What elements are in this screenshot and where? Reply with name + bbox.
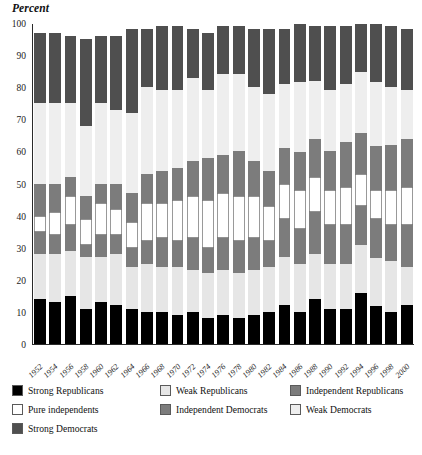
bar-segment bbox=[324, 309, 336, 344]
bar-segment bbox=[202, 158, 214, 200]
bar-segment bbox=[126, 193, 138, 222]
bar-segment bbox=[370, 82, 382, 146]
bar-segment bbox=[34, 232, 46, 254]
bar-segment bbox=[49, 302, 61, 344]
bar-segment bbox=[233, 196, 245, 241]
x-axis-tick: 1998 bbox=[378, 362, 396, 380]
bar-segment bbox=[110, 184, 122, 210]
bar-1962[interactable] bbox=[110, 24, 122, 344]
bar-segment bbox=[202, 248, 214, 274]
bar-segment bbox=[385, 87, 397, 145]
bar-1988[interactable] bbox=[309, 24, 321, 344]
bar-1996[interactable] bbox=[370, 24, 382, 344]
x-axis-tick: 1978 bbox=[225, 362, 243, 380]
bar-1982[interactable] bbox=[263, 24, 275, 344]
bar-segment bbox=[141, 241, 153, 263]
bar-segment bbox=[401, 225, 413, 267]
bar-1984[interactable] bbox=[279, 24, 291, 344]
bar-segment bbox=[65, 296, 77, 344]
y-axis-tick: 10 bbox=[17, 308, 27, 318]
y-axis-tick: 100 bbox=[12, 19, 26, 29]
bar-1968[interactable] bbox=[156, 24, 168, 344]
bar-1972[interactable] bbox=[187, 24, 199, 344]
bar-segment bbox=[355, 24, 367, 72]
bar-1956[interactable] bbox=[65, 24, 77, 344]
chart-legend: Strong RepublicansWeak RepublicansIndepe… bbox=[12, 385, 412, 443]
bar-1992[interactable] bbox=[340, 24, 352, 344]
y-axis-tick: 60 bbox=[17, 147, 27, 157]
bar-segment bbox=[340, 84, 352, 142]
x-axis-labels: 1952195419561958196019621964196619681970… bbox=[32, 346, 414, 380]
bar-segment bbox=[172, 200, 184, 242]
x-axis-tick: 1956 bbox=[57, 362, 75, 380]
bar-1980[interactable] bbox=[248, 24, 260, 344]
bar-segment bbox=[279, 184, 291, 219]
bar-segment bbox=[217, 315, 229, 344]
bar-1952[interactable] bbox=[34, 24, 46, 344]
legend-label: Weak Democrats bbox=[306, 404, 372, 415]
bar-segment bbox=[340, 264, 352, 309]
bar-segment bbox=[294, 229, 306, 264]
bar-segment bbox=[294, 190, 306, 228]
bar-1994[interactable] bbox=[355, 24, 367, 344]
bar-1990[interactable] bbox=[324, 24, 336, 344]
bar-segment bbox=[95, 257, 107, 302]
bar-1958[interactable] bbox=[80, 24, 92, 344]
bar-segment bbox=[34, 299, 46, 344]
bar-segment bbox=[65, 36, 77, 103]
legend-item[interactable]: Pure independents bbox=[12, 404, 99, 415]
bar-1986[interactable] bbox=[294, 24, 306, 344]
bar-segment bbox=[156, 26, 168, 90]
legend-label: Independent Republicans bbox=[306, 385, 403, 396]
legend-item[interactable]: Strong Democrats bbox=[12, 423, 98, 434]
bar-segment bbox=[233, 241, 245, 273]
x-axis-tick: 1972 bbox=[179, 362, 197, 380]
legend-item[interactable]: Independent Republicans bbox=[290, 385, 403, 396]
bar-segment bbox=[34, 103, 46, 183]
bar-1970[interactable] bbox=[172, 24, 184, 344]
bar-segment bbox=[110, 36, 122, 110]
y-axis-tick: 0 bbox=[21, 340, 26, 350]
bar-segment bbox=[370, 258, 382, 306]
bar-1998[interactable] bbox=[385, 24, 397, 344]
legend-item[interactable]: Independent Democrats bbox=[160, 404, 267, 415]
bar-segment bbox=[370, 146, 382, 191]
legend-item[interactable]: Weak Democrats bbox=[290, 404, 372, 415]
bar-segment bbox=[65, 103, 77, 177]
bar-segment bbox=[80, 257, 92, 308]
x-axis-tick: 1952 bbox=[27, 362, 45, 380]
bar-1954[interactable] bbox=[49, 24, 61, 344]
bar-segment bbox=[340, 225, 352, 264]
bar-segment bbox=[401, 305, 413, 344]
bar-1978[interactable] bbox=[233, 24, 245, 344]
bar-2000[interactable] bbox=[401, 24, 413, 344]
bar-segment bbox=[309, 81, 321, 139]
bar-segment bbox=[202, 273, 214, 318]
bar-segment bbox=[385, 26, 397, 87]
legend-item[interactable]: Strong Republicans bbox=[12, 385, 103, 396]
bar-segment bbox=[324, 90, 336, 151]
bar-1974[interactable] bbox=[202, 24, 214, 344]
bar-1976[interactable] bbox=[217, 24, 229, 344]
bar-segment bbox=[141, 264, 153, 312]
bar-1960[interactable] bbox=[95, 24, 107, 344]
bar-segment bbox=[110, 254, 122, 305]
bar-segment bbox=[355, 245, 367, 293]
bar-segment bbox=[309, 139, 321, 178]
bar-segment bbox=[370, 190, 382, 219]
bar-segment bbox=[49, 235, 61, 254]
bar-segment bbox=[263, 171, 275, 206]
bar-segment bbox=[49, 184, 61, 213]
bar-segment bbox=[309, 177, 321, 212]
bar-segment bbox=[248, 161, 260, 196]
bar-1964[interactable] bbox=[126, 24, 138, 344]
legend-item[interactable]: Weak Republicans bbox=[160, 385, 247, 396]
bar-segment bbox=[263, 267, 275, 312]
bar-1966[interactable] bbox=[141, 24, 153, 344]
bar-segment bbox=[141, 312, 153, 344]
bar-segment bbox=[309, 26, 321, 81]
bar-segment bbox=[187, 196, 199, 238]
y-axis-tick: 90 bbox=[17, 51, 27, 61]
bar-segment bbox=[80, 245, 92, 258]
bar-segment bbox=[340, 187, 352, 226]
